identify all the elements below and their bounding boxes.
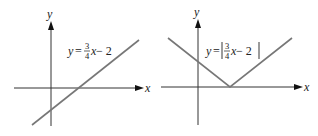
left-equation-label: y = 3 4 x − 2 (67, 41, 112, 61)
right-x-axis-arrow-icon (294, 84, 303, 90)
left-y-axis-label: y (46, 7, 53, 21)
right-absolute-value-graph (168, 38, 292, 87)
left-y-axis-arrow-icon (48, 21, 54, 30)
right-x-axis-label: x (303, 80, 310, 94)
left-graph: y x y = 3 4 x − 2 (14, 7, 151, 126)
right-graph: y x y = 3 4 x − 2 (161, 5, 310, 125)
left-eq-lhs: y (67, 44, 74, 58)
right-equation-label: y = 3 4 x − 2 (205, 41, 259, 61)
left-x-axis-arrow-icon (135, 85, 144, 91)
right-y-axis-label: y (193, 5, 200, 19)
left-eq-numerator: 3 (85, 41, 89, 51)
right-eq-lhs: y (205, 44, 212, 58)
right-eq-sign: = (213, 44, 220, 58)
left-eq-sign: = (75, 44, 82, 58)
left-eq-denominator: 4 (85, 51, 90, 61)
left-eq-rest: − 2 (96, 44, 112, 58)
right-y-axis-arrow-icon (195, 19, 201, 28)
right-eq-denominator: 4 (225, 51, 230, 61)
right-eq-rest: − 2 (236, 44, 252, 58)
left-x-axis-label: x (144, 81, 151, 95)
right-eq-numerator: 3 (225, 41, 229, 51)
figure-canvas: y x y = 3 4 x − 2 y x y = (0, 0, 318, 136)
